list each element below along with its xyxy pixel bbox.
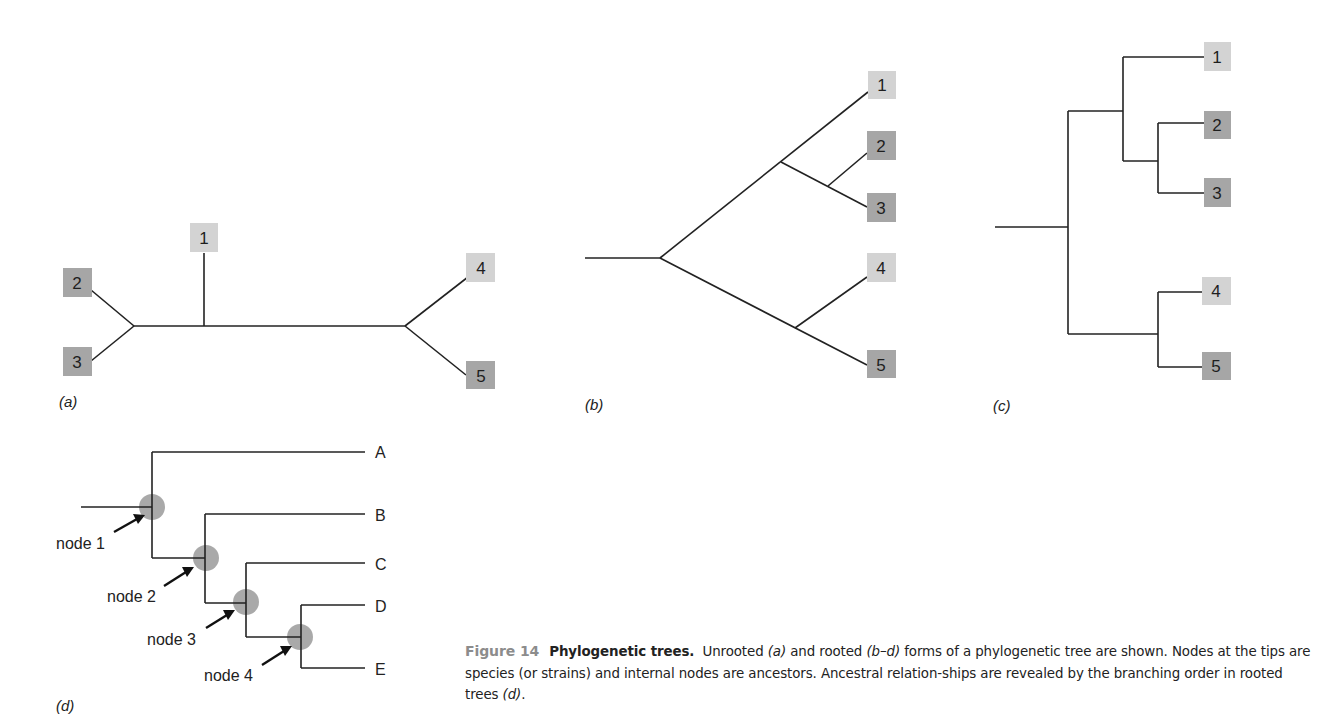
panel-c-tip-2: 2 [1204,111,1231,139]
arrow-icon [114,514,145,532]
tip-label-4: 4 [876,259,885,278]
panel-d-branches [81,452,365,668]
caption-text: . [521,687,525,702]
panel-d-label: (d) [56,697,74,714]
tip-label-e: E [375,661,386,678]
caption-text: Unrooted [702,644,767,659]
panel-c-tip-4: 4 [1202,277,1231,305]
tip-label-1: 1 [199,229,208,248]
tip-label-3: 3 [876,199,885,218]
tip-label-4: 4 [476,259,485,278]
phylogenetic-trees-figure: 1 2 3 4 5 (a) 1 [0,0,1320,728]
panel-c-tip-5: 5 [1202,352,1231,380]
caption-panel-ref: (a) [768,644,786,659]
caption-panel-ref: (d) [503,687,522,702]
caption-text: and rooted [786,644,866,659]
node-4-label: node 4 [204,667,253,684]
tip-label-5: 5 [1211,357,1220,376]
tip-label-2: 2 [72,274,81,293]
panel-a-tip-5: 5 [466,361,495,389]
tip-label-1: 1 [1212,48,1221,67]
tip-label-5: 5 [476,367,485,386]
node-2-label: node 2 [107,588,156,605]
panel-a-tip-1: 1 [190,223,218,252]
figure-caption: Figure 14Phylogenetic trees. Unrooted (a… [465,641,1315,706]
caption-panel-ref: (b–d) [866,644,900,659]
panel-c-label: (c) [993,397,1011,414]
panel-d-annotated-rooted-tree: A B C D E node 1 [56,444,387,715]
panel-d-tip-labels: A B C D E [375,444,387,678]
panel-b-label: (b) [585,396,603,413]
panel-b-tip-2: 2 [867,131,896,160]
tip-label-a: A [375,444,386,461]
panel-b-tip-4: 4 [867,253,896,282]
panel-a-tip-3: 3 [63,347,92,376]
arrow-icon [262,646,292,665]
panel-d-node-labels: node 1 node 2 node 3 node 4 [56,535,253,684]
figure-title: Phylogenetic trees. [549,644,694,659]
panel-d-node-highlights [139,494,313,650]
node-3-label: node 3 [147,631,196,648]
tip-label-4: 4 [1211,282,1220,301]
panel-a-unrooted-tree: 1 2 3 4 5 (a) [59,223,495,410]
tip-label-1: 1 [877,76,886,95]
tip-label-3: 3 [72,353,81,372]
panel-b-tip-3: 3 [867,193,896,222]
tip-label-5: 5 [876,356,885,375]
panel-b-tip-1: 1 [868,71,896,99]
tip-label-c: C [375,556,387,573]
panel-c-tip-3: 3 [1204,178,1231,207]
panel-b-branches [585,92,868,365]
node-1-label: node 1 [56,535,105,552]
tip-label-b: B [375,507,386,524]
panel-b-tip-5: 5 [867,350,896,378]
tip-label-2: 2 [1212,116,1221,135]
tip-label-3: 3 [1212,184,1221,203]
panel-c-tip-1: 1 [1204,42,1231,71]
arrow-icon [164,567,194,586]
panel-a-label: (a) [59,393,77,410]
figure-number: Figure 14 [465,643,539,659]
panel-a-branches [91,253,468,375]
tip-label-2: 2 [876,137,885,156]
panel-a-tip-2: 2 [63,268,92,297]
panel-c-rooted-rectangular-tree: 1 2 3 4 5 (c) [993,42,1231,414]
panel-b-rooted-slanted-tree: 1 2 3 4 5 (b) [585,71,896,413]
tip-label-d: D [375,598,387,615]
panel-a-tip-4: 4 [466,253,495,282]
arrow-icon [206,610,235,628]
panel-c-branches [995,57,1204,367]
